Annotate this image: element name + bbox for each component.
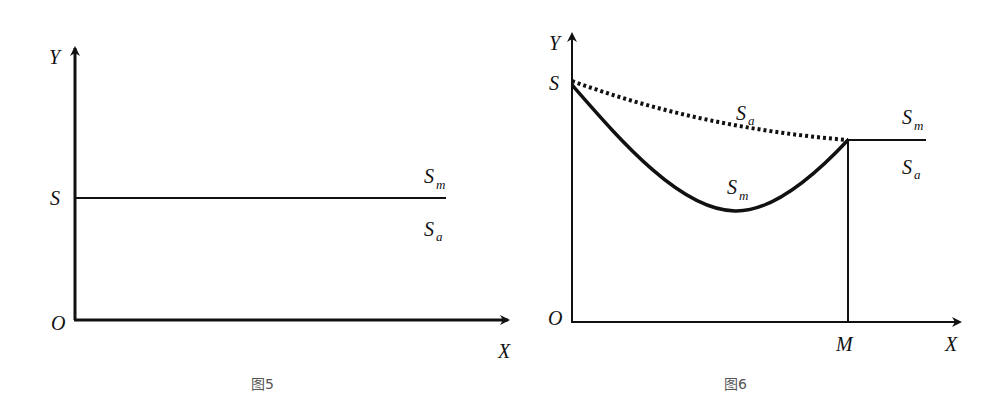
svg-text:S: S [424, 218, 434, 240]
svg-text:m: m [914, 118, 923, 133]
svg-text:S: S [902, 106, 912, 128]
svg-text:m: m [739, 188, 748, 203]
fig6-x-label: X [944, 333, 958, 355]
fig6-sa-right-label: S a [902, 156, 921, 182]
figure-6: Y S O M X S a S m S m S a 图6 [548, 32, 960, 392]
svg-text:a: a [748, 113, 755, 128]
fig6-y-label: Y [549, 32, 562, 54]
fig6-sm-solid-curve [572, 85, 848, 211]
fig6-sm-curve-label: S m [727, 176, 748, 203]
fig5-x-label: X [497, 340, 511, 362]
fig5-s-label: S [50, 187, 60, 209]
fig5-sm-label: S m [424, 165, 445, 192]
svg-text:a: a [436, 229, 443, 244]
fig6-s-label: S [549, 72, 559, 94]
fig5-origin-label: O [51, 312, 65, 334]
svg-text:a: a [914, 167, 921, 182]
fig5-sa-label: S a [424, 218, 443, 244]
fig5-y-label: Y [49, 46, 62, 68]
svg-text:S: S [902, 156, 912, 178]
fig6-caption: 图6 [724, 376, 747, 392]
figures-canvas: Y S O X S m S a 图5 Y S O M X S a S m [0, 0, 1008, 419]
figure-5: Y S O X S m S a 图5 [49, 46, 511, 392]
svg-text:S: S [424, 165, 434, 187]
svg-text:S: S [727, 176, 737, 198]
fig6-sm-right-label: S m [902, 106, 923, 133]
fig6-origin-label: O [548, 307, 562, 329]
svg-text:m: m [436, 177, 445, 192]
fig5-caption: 图5 [251, 376, 274, 392]
svg-text:S: S [736, 102, 746, 124]
fig6-m-label: M [835, 333, 854, 355]
fig6-sa-curve-label: S a [736, 102, 755, 128]
